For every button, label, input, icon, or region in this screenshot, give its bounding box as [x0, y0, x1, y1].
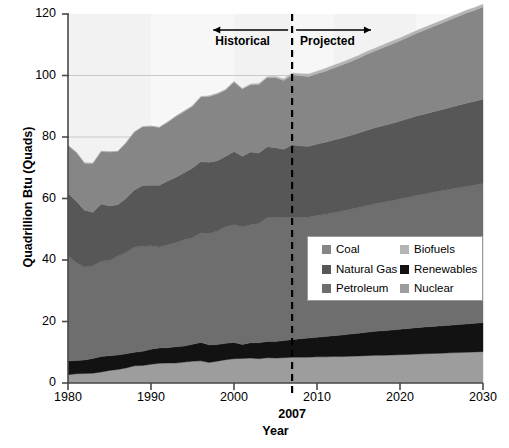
y-tick-label: 80: [22, 129, 56, 143]
legend-swatch-icon: [400, 245, 409, 254]
x-axis-label: Year: [68, 424, 483, 438]
legend-swatch-icon: [400, 284, 409, 293]
legend-label: Biofuels: [414, 243, 455, 255]
legend-label: Coal: [336, 243, 360, 255]
y-tick-label: 100: [22, 68, 56, 82]
legend-item-renewables[interactable]: Renewables: [400, 263, 477, 275]
y-tick-label: 120: [22, 6, 56, 20]
legend-item-nuclear[interactable]: Nuclear: [400, 282, 454, 294]
legend-label: Nuclear: [414, 282, 454, 294]
legend-swatch-icon: [322, 265, 331, 274]
projected-annotation: Projected: [300, 34, 355, 48]
legend-label: Natural Gas: [336, 263, 397, 275]
legend-swatch-icon: [400, 265, 409, 274]
x-tick-label: 2000: [204, 390, 264, 404]
x-tick-label: 2020: [370, 390, 430, 404]
y-tick-label: 40: [22, 252, 56, 266]
x-tick-label: 1990: [121, 390, 181, 404]
historical-annotation: Historical: [215, 34, 270, 48]
legend-item-coal[interactable]: Coal: [322, 243, 360, 255]
legend-item-biofuels[interactable]: Biofuels: [400, 243, 455, 255]
y-tick-label: 0: [22, 375, 56, 389]
stacked-area-chart: [0, 0, 509, 448]
legend-label: Petroleum: [336, 282, 388, 294]
legend-item-natural-gas[interactable]: Natural Gas: [322, 263, 397, 275]
chart-legend: CoalBiofuelsNatural GasRenewablesPetrole…: [307, 236, 483, 301]
y-tick-label: 20: [22, 314, 56, 328]
y-tick-label: 60: [22, 191, 56, 205]
legend-swatch-icon: [322, 245, 331, 254]
chart-root: Quadrillion Btu (Quads) Year 02040608010…: [0, 0, 509, 448]
x-tick-label: 1980: [38, 390, 98, 404]
divider-year-label: 2007: [262, 407, 322, 421]
legend-swatch-icon: [322, 284, 331, 293]
legend-item-petroleum[interactable]: Petroleum: [322, 282, 388, 294]
x-tick-label: 2010: [287, 390, 347, 404]
x-tick-label: 2030: [453, 390, 509, 404]
legend-label: Renewables: [414, 263, 477, 275]
